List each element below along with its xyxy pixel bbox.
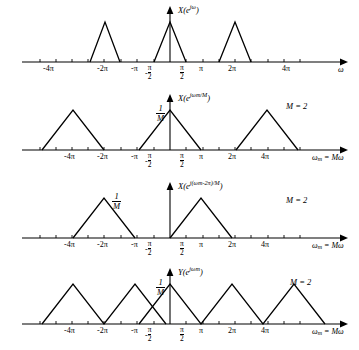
panel-3-x-axis-label: ωm = Mω	[312, 242, 344, 250]
triangle-right	[236, 110, 298, 150]
tick-label-neg2pi: -2π	[97, 153, 108, 161]
tick-label-neg4pi: -4π	[64, 153, 75, 161]
tick-label-negpi: -π	[131, 241, 138, 249]
triangle-train-left	[42, 284, 166, 324]
triangle-left	[73, 198, 135, 238]
tick-label-neg4pi: -4π	[64, 241, 75, 249]
triangle-left	[42, 110, 104, 150]
tick-label-4pi: 4π	[282, 65, 290, 73]
tick-label-2pi: 2π	[228, 65, 236, 73]
panel-2-m-annotation: M = 2	[286, 102, 307, 111]
triangle-train-right	[139, 284, 325, 324]
y-axis-arrowhead	[167, 268, 174, 276]
panel-1-spectrum-x-omega: X(ejω) -4π -2π -π -π2 π2 π 2π 4π ω	[0, 0, 359, 88]
panel-3-m-annotation: M = 2	[286, 196, 307, 205]
panel-2-function-label: X(ejωm/M)	[178, 92, 210, 102]
tick-label-4pi: 4π	[261, 153, 269, 161]
y-axis-arrowhead	[167, 6, 174, 14]
tick-label-4pi: 4π	[261, 327, 269, 335]
panel-3-peak-value-label: 1M	[112, 192, 121, 211]
triangle-right	[170, 198, 232, 238]
tick-label-pi: π	[199, 241, 203, 249]
tick-label-pi: π	[199, 65, 203, 73]
tick-label-neg4pi: -4π	[43, 65, 54, 73]
panel-2-peak-value-label: 1M	[156, 104, 165, 123]
tick-label-2pi: 2π	[228, 153, 236, 161]
panel-1-x-axis-label: ω	[338, 66, 344, 74]
tick-label-negpi: -π	[131, 327, 138, 335]
tick-label-neg2pi: -2π	[97, 327, 108, 335]
tick-label-pi-over-2: π2	[180, 325, 184, 343]
tick-label-neg2pi: -2π	[97, 65, 108, 73]
panel-3-function-label: X(ej(ωm-2π)/M)	[178, 180, 222, 190]
tick-label-2pi: 2π	[228, 241, 236, 249]
panel-1-function-label: X(ejω)	[178, 4, 199, 14]
tick-label-pi-over-2: π2	[180, 239, 184, 257]
tick-label-pi-over-2: π2	[180, 63, 184, 81]
tick-label-negpi: -π	[131, 65, 138, 73]
tick-label-pi: π	[199, 153, 203, 161]
spectrum-triangles	[73, 198, 232, 238]
tick-label-neg2pi: -2π	[97, 241, 108, 249]
tick-label-pi-over-2: π2	[180, 151, 184, 169]
triangle-left	[90, 22, 120, 62]
tick-label-neg-pi-over-2: -π2	[145, 151, 151, 169]
panel-4-output-spectrum-y: Y(ejωm) 1M M = 2 -4π -2π -π -π2 π2 π 2π …	[0, 262, 359, 350]
panel-2-spectrum-x-omega-m-over-m: X(ejωm/M) 1M M = 2 -4π -2π -π -π2 π2 π 2…	[0, 88, 359, 176]
panel-4-m-annotation: M = 2	[290, 278, 311, 287]
panel-3-spectrum-shifted: X(ej(ωm-2π)/M) 1M M = 2 -4π -2π -π -π2 π…	[0, 176, 359, 264]
triangle-right	[219, 22, 251, 62]
tick-label-negpi: -π	[131, 153, 138, 161]
spectrum-triangles	[42, 284, 325, 324]
tick-label-neg4pi: -4π	[64, 327, 75, 335]
tick-label-2pi: 2π	[228, 327, 236, 335]
tick-label-4pi: 4π	[261, 241, 269, 249]
tick-label-neg-pi-over-2: -π2	[145, 63, 151, 81]
panel-4-function-label: Y(ejωm)	[178, 266, 203, 276]
tick-label-neg-pi-over-2: -π2	[145, 325, 151, 343]
tick-label-pi: π	[199, 327, 203, 335]
y-axis-arrowhead	[167, 94, 174, 102]
panel-4-peak-value-label: 1M	[156, 278, 165, 297]
tick-label-neg-pi-over-2: -π2	[145, 239, 151, 257]
panel-4-x-axis-label: ωm = Mω	[312, 328, 344, 336]
y-axis-arrowhead	[167, 182, 174, 190]
panel-2-x-axis-label: ωm = Mω	[312, 154, 344, 162]
